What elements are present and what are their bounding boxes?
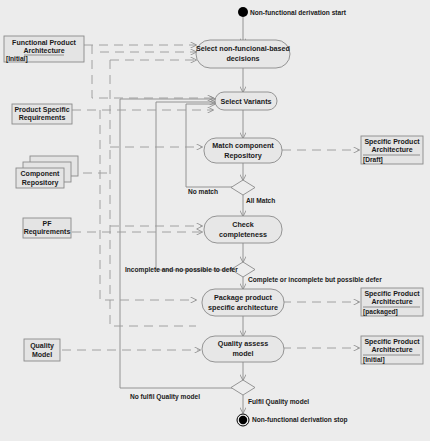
action-label: Repository bbox=[224, 151, 262, 160]
action-label: Check bbox=[232, 220, 254, 229]
object-label: Product Specific bbox=[14, 106, 69, 114]
object-label: Architecture bbox=[371, 346, 412, 353]
guard-complete-or-defer: Complete or incomplete but possible defe… bbox=[248, 276, 382, 284]
action-label: completeness bbox=[219, 230, 267, 239]
action-package-product: Package product specific architecture bbox=[202, 289, 284, 316]
final-node-icon bbox=[239, 416, 247, 424]
object-label: Repository bbox=[22, 179, 59, 187]
output-specific-product-architecture-draft: Specific Product Architecture [Draft] bbox=[361, 136, 423, 164]
object-label: Quality bbox=[30, 342, 54, 350]
action-quality-assess: Quality assess model bbox=[202, 336, 284, 362]
object-label: Component bbox=[21, 170, 61, 178]
initial-node-icon bbox=[238, 7, 248, 17]
object-state: [packaged] bbox=[363, 308, 398, 316]
guard-all-match: All Match bbox=[246, 197, 275, 204]
action-label: decisions bbox=[226, 54, 259, 63]
decision-completeness: Incomplete and no possible to defer Comp… bbox=[125, 262, 382, 284]
activity-diagram: Non-functional derivation start Select n… bbox=[0, 0, 430, 441]
decision-quality: No fulfil Quality model Fulfil Quality m… bbox=[130, 380, 309, 406]
decision-match: No match All Match bbox=[188, 180, 275, 204]
action-select-decisions: Select non-funcional-based decisions bbox=[196, 40, 290, 68]
stop-node: Non-functional derivation stop bbox=[237, 414, 348, 426]
object-label: Architecture bbox=[23, 47, 64, 54]
guard-incomplete-no-defer: Incomplete and no possible to defer bbox=[125, 266, 238, 274]
input-product-specific-requirements: Product Specific Requirements bbox=[12, 104, 72, 124]
object-label: PF bbox=[43, 220, 53, 227]
output-specific-product-architecture-initial: Specific Product Architecture [Initial] bbox=[361, 336, 423, 364]
object-label: Requirements bbox=[19, 114, 66, 122]
object-label: Specific Product bbox=[364, 290, 420, 298]
object-state: [Initial] bbox=[363, 356, 385, 364]
object-label: Specific Product bbox=[364, 338, 420, 346]
object-label: Requirements bbox=[24, 228, 71, 236]
input-functional-product-architecture: Functional Product Architecture [Initial… bbox=[4, 36, 84, 63]
object-state: [Draft] bbox=[363, 156, 383, 164]
start-label: Non-functional derivation start bbox=[250, 9, 347, 16]
action-label: Quality assess bbox=[218, 339, 268, 348]
guard-fulfil: Fulfil Quality model bbox=[248, 398, 309, 406]
action-match-component: Match component Repository bbox=[204, 138, 282, 163]
action-check-completeness: Check completeness bbox=[204, 216, 282, 243]
start-node: Non-functional derivation start bbox=[238, 7, 347, 17]
decision-diamond-icon bbox=[231, 180, 255, 195]
action-select-variants: Select Variants bbox=[215, 92, 277, 110]
input-component-repository: Component Repository bbox=[16, 156, 78, 188]
action-label: specific architecture bbox=[208, 303, 278, 312]
action-label: Match component bbox=[212, 141, 274, 150]
action-label: model bbox=[232, 349, 253, 358]
decision-diamond-icon bbox=[231, 380, 255, 395]
objflow-fpa-a6 bbox=[110, 60, 196, 326]
object-state: [Initial] bbox=[6, 55, 28, 63]
guard-no-fulfil: No fulfil Quality model bbox=[130, 393, 200, 401]
output-specific-product-architecture-packaged: Specific Product Architecture [packaged] bbox=[361, 288, 423, 316]
object-label: Architecture bbox=[371, 146, 412, 153]
object-label: Specific Product bbox=[364, 138, 420, 146]
edge-incomplete-loop bbox=[156, 102, 232, 270]
object-label: Model bbox=[32, 351, 52, 358]
action-label: Select Variants bbox=[220, 97, 271, 106]
guard-no-match: No match bbox=[188, 188, 218, 195]
input-pf-requirements: PF Requirements bbox=[23, 218, 71, 238]
object-label: Functional Product bbox=[12, 39, 76, 46]
input-quality-model: Quality Model bbox=[24, 339, 60, 361]
action-label: Select non-funcional-based bbox=[196, 44, 290, 53]
stop-label: Non-functional derivation stop bbox=[252, 416, 348, 424]
action-label: Package product bbox=[214, 293, 273, 302]
object-label: Architecture bbox=[371, 298, 412, 305]
